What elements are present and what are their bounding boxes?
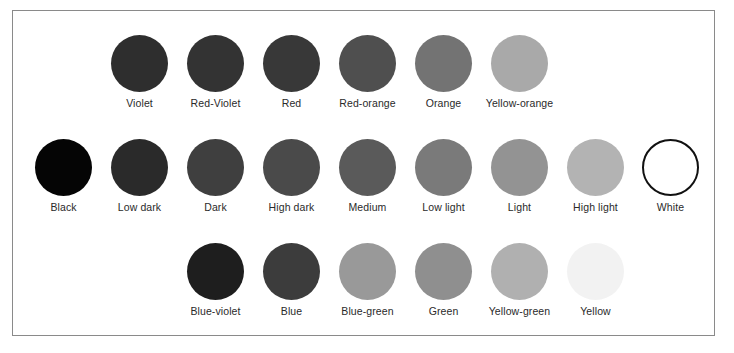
swatch-yellow: Yellow — [558, 243, 634, 325]
green-circle — [415, 243, 472, 300]
red-orange-circle — [339, 35, 396, 92]
swatch-label: Yellow — [538, 305, 654, 317]
red-violet-circle — [187, 35, 244, 92]
orange-circle — [415, 35, 472, 92]
low-light-circle — [415, 139, 472, 196]
blue-circle — [263, 243, 320, 300]
swatch-label: Yellow-orange — [462, 97, 578, 109]
violet-circle — [111, 35, 168, 92]
swatch-yellow-orange: Yellow-orange — [482, 35, 558, 117]
light-circle — [491, 139, 548, 196]
black-circle — [35, 139, 92, 196]
yellow-circle — [567, 243, 624, 300]
low-dark-circle — [111, 139, 168, 196]
white-circle — [642, 139, 699, 196]
dark-circle — [187, 139, 244, 196]
high-dark-circle — [263, 139, 320, 196]
red-circle — [263, 35, 320, 92]
yellow-orange-circle — [491, 35, 548, 92]
yellow-green-circle — [491, 243, 548, 300]
swatch-white: White — [633, 139, 709, 221]
medium-circle — [339, 139, 396, 196]
blue-green-circle — [339, 243, 396, 300]
swatch-label: White — [613, 201, 729, 213]
blue-violet-circle — [187, 243, 244, 300]
high-light-circle — [567, 139, 624, 196]
